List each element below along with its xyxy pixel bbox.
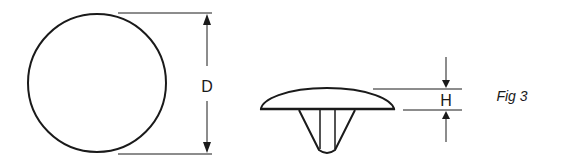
arrow-up-icon [203, 14, 211, 25]
arrow-down-icon [203, 142, 211, 153]
cap-dome [261, 88, 394, 109]
top-view [28, 14, 166, 152]
circle-outline [28, 14, 166, 152]
figure-caption: Fig 3 [496, 88, 527, 104]
diagram-canvas: D H Fig 3 [0, 0, 576, 166]
arrow-up-icon [442, 111, 450, 119]
arrow-down-icon [442, 80, 450, 88]
label-h: H [440, 92, 452, 109]
label-d: D [201, 78, 213, 95]
side-view [260, 88, 395, 153]
stem-outline [299, 110, 355, 153]
